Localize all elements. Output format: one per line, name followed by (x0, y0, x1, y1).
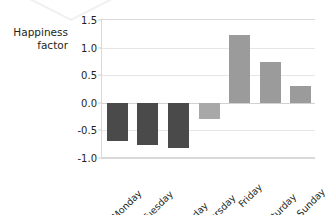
x-tick-label-wednesday: Wednesday (164, 200, 211, 215)
y-tick-mark (98, 20, 102, 21)
y-tick-label: -0.5 (77, 125, 97, 136)
y-tick-label: 0.5 (81, 70, 97, 81)
x-tick-label-monday: Monday (110, 188, 144, 215)
bar-chart-figure: Happiness factor 1.51.00.50.0-0.5-1.0 Mo… (0, 0, 331, 215)
y-tick-label: 1.5 (81, 15, 97, 26)
x-tick-label-friday: Friday (236, 181, 264, 209)
bar-saturday (260, 62, 281, 103)
y-tick-mark (98, 130, 102, 131)
y-tick-label: -1.0 (77, 153, 97, 164)
bar-wednesday (168, 103, 189, 148)
gridline (102, 75, 315, 76)
y-tick-label: 0.0 (81, 97, 97, 108)
y-tick-mark (98, 75, 102, 76)
x-tick-label-tuesday: Tuesday (140, 188, 175, 215)
x-axis-tick-labels: MondayTuesdayWednesdayThursdayFridaySatu… (101, 157, 315, 215)
y-tick-label: 1.0 (81, 42, 97, 53)
bar-sunday (290, 86, 311, 103)
gridline (102, 130, 315, 131)
plot-inner: 1.51.00.50.0-0.5-1.0 (102, 20, 315, 157)
x-tick-label-saturday: Saturday (260, 191, 298, 215)
y-tick-mark (98, 102, 102, 103)
bar-thursday (199, 103, 220, 119)
y-axis-label: Happiness factor (6, 26, 68, 52)
plot-area: 1.51.00.50.0-0.5-1.0 (101, 19, 315, 157)
bar-friday (229, 35, 250, 103)
bar-tuesday (137, 103, 158, 145)
bar-monday (107, 103, 128, 142)
y-tick-mark (98, 47, 102, 48)
x-tick-label-sunday: Sunday (294, 186, 327, 215)
gridline (102, 48, 315, 49)
